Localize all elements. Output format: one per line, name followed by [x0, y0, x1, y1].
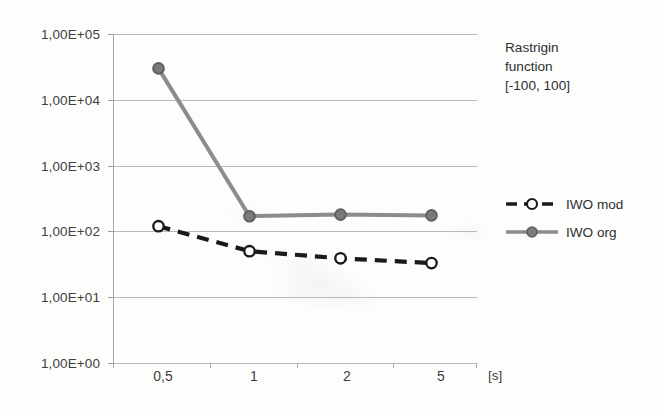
y-tick-label: 1,00E+05: [41, 27, 100, 42]
chart-title-line: function: [505, 57, 655, 76]
legend-key-solid-filled-circle: [505, 225, 559, 239]
y-axis-line: [113, 34, 114, 363]
chart-title-line: [-100, 100]: [505, 76, 655, 95]
chart-title-line: Rastrigin: [505, 38, 655, 57]
legend-label: IWO mod: [566, 197, 623, 212]
y-tick-label: 1,00E+04: [41, 92, 100, 107]
gridline: [113, 231, 477, 232]
x-tick-label: 1: [250, 368, 258, 384]
legend-item-iwo-org[interactable]: IWO org: [505, 218, 660, 246]
chart-legend: IWO mod IWO org: [505, 190, 660, 246]
y-axis-tick: [108, 231, 114, 232]
y-tick-label: 1,00E+00: [41, 356, 100, 371]
gridline: [113, 363, 477, 364]
y-axis-tick: [108, 34, 114, 35]
gridline: [113, 34, 477, 35]
chart-figure: 1,00E+05 1,00E+04 1,00E+03 1,00E+02 1,00…: [0, 0, 664, 415]
y-axis-tick: [108, 100, 114, 101]
gridline: [113, 100, 477, 101]
y-tick-label: 1,00E+01: [41, 290, 100, 305]
legend-key-dashed-open-circle: [505, 197, 559, 211]
x-tick-label: 5: [437, 368, 445, 384]
legend-label: IWO org: [566, 225, 617, 240]
y-axis-tick: [108, 166, 114, 167]
y-axis-tick: [108, 297, 114, 298]
x-axis-unit-label: [s]: [488, 368, 502, 383]
y-axis-labels: 1,00E+05 1,00E+04 1,00E+03 1,00E+02 1,00…: [0, 34, 108, 363]
x-tick-label: 2: [343, 368, 351, 384]
gridline: [113, 166, 477, 167]
y-tick-label: 1,00E+03: [41, 158, 100, 173]
plot-area: [113, 34, 477, 363]
chart-title: Rastrigin function [-100, 100]: [505, 38, 655, 95]
y-tick-label: 1,00E+02: [41, 224, 100, 239]
legend-item-iwo-mod[interactable]: IWO mod: [505, 190, 660, 218]
gridline: [113, 297, 477, 298]
x-tick-label: 0,5: [153, 368, 172, 384]
x-axis-labels: 0,5 1 2 5: [113, 368, 477, 394]
